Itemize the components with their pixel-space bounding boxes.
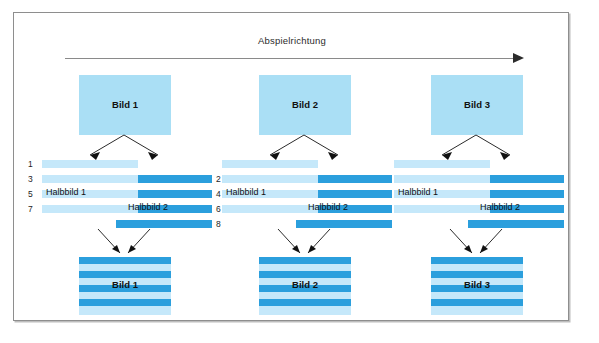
result-stripe [79,271,171,278]
split-arrows-icon [64,135,184,163]
merge-arrows-icon [244,229,364,259]
field-row [222,160,318,168]
field-row [394,175,490,183]
result-stripe [431,271,523,278]
field-2-label: Halbbild 2 [128,202,168,212]
source-image-block: Bild 1 [79,75,171,135]
interlaced-fields: Halbbild 1 Halbbild 2 [204,160,384,230]
diagram-frame: Abspielrichtung Bild 1 [13,12,569,321]
row-number-label: 3 [28,175,33,183]
result-stripe [79,299,171,306]
field-2-label: Halbbild 2 [480,202,520,212]
source-image-block: Bild 2 [259,75,351,135]
result-stripe [259,257,351,264]
result-stripe [431,299,523,306]
field-row [394,160,490,168]
frame-group-2: Bild 2 Halbbild 1 H [204,13,384,322]
interlaced-fields: Halbbild 1 Halbbild 2 [376,160,556,230]
field-row [42,205,138,213]
field-row [222,205,318,213]
merge-arrows-icon [416,229,536,259]
merge-arrows-icon [64,229,184,259]
field-row [222,175,318,183]
row-number-label: 1 [28,160,33,168]
result-image-label: Bild 1 [79,279,171,290]
result-stripe [431,257,523,264]
source-image-label: Bild 1 [79,99,171,110]
source-image-label: Bild 3 [431,99,523,110]
field-row [394,205,490,213]
result-image-block: Bild 1 [79,257,171,315]
result-stripe [259,271,351,278]
field-row [468,220,564,228]
field-2-label: Halbbild 2 [308,202,348,212]
field-row [42,175,138,183]
result-image-block: Bild 3 [431,257,523,315]
interlaced-fields: 1 3 5 7 2 4 6 8 Halbbild 1 Halbbild 2 [24,160,204,230]
source-image-block: Bild 3 [431,75,523,135]
field-1-label: Halbbild 1 [398,187,438,197]
field-row [42,160,138,168]
field-1-label: Halbbild 1 [46,187,86,197]
field-1-label: Halbbild 1 [226,187,266,197]
split-arrows-icon [416,135,536,163]
result-image-label: Bild 3 [431,279,523,290]
row-number-label: 5 [28,190,33,198]
frame-group-1: Bild 1 1 3 [24,13,204,322]
result-image-label: Bild 2 [259,279,351,290]
frame-group-3: Bild 3 Halbbild 1 H [376,13,556,322]
field-row [116,220,212,228]
result-stripe [259,299,351,306]
split-arrows-icon [244,135,364,163]
result-image-block: Bild 2 [259,257,351,315]
diagram-canvas: Abspielrichtung Bild 1 [0,0,599,343]
source-image-label: Bild 2 [259,99,351,110]
result-stripe [79,257,171,264]
row-number-label: 7 [28,205,33,213]
